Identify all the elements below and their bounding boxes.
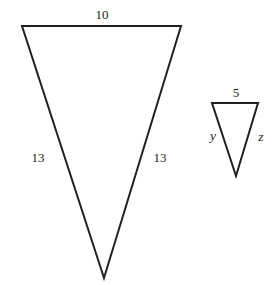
small-triangle-outline <box>212 103 258 176</box>
geometry-figure: 10 13 13 5 y z <box>0 0 276 285</box>
small-triangle-right-side-label: z <box>258 130 263 144</box>
small-triangle-top-side-label: 5 <box>233 86 240 99</box>
small-triangle-left-side-label: y <box>210 129 216 143</box>
triangles-canvas <box>0 0 276 285</box>
large-triangle-left-side-label: 13 <box>32 151 45 164</box>
large-triangle-top-side-label: 10 <box>96 8 109 21</box>
large-triangle-right-side-label: 13 <box>154 151 167 164</box>
